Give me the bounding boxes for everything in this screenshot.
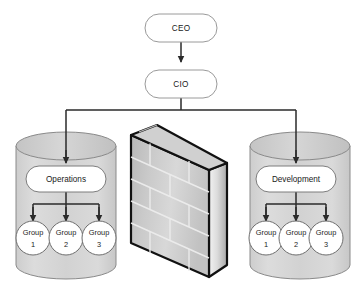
operations-group-3-label-line2: 3 (97, 240, 101, 249)
firewall-side-face (209, 163, 227, 277)
development-group-1-label-line1: Group (256, 228, 277, 237)
node-development[interactable]: Development (256, 166, 336, 192)
node-operations-group-2[interactable]: Group 2 (49, 221, 83, 255)
development-group-3-label-line1: Group (316, 228, 337, 237)
operations-group-1-label-line2: 1 (31, 240, 35, 249)
cio-label: CIO (173, 80, 188, 89)
node-development-group-1[interactable]: Group 1 (249, 221, 283, 255)
development-label: Development (272, 175, 321, 184)
node-ceo[interactable]: CEO (145, 14, 217, 42)
operations-group-2-shape (49, 221, 83, 255)
node-operations[interactable]: Operations (26, 166, 106, 192)
development-group-2-shape (279, 221, 313, 255)
node-operations-group-3[interactable]: Group 3 (82, 221, 116, 255)
operations-label: Operations (46, 175, 86, 184)
node-development-group-2[interactable]: Group 2 (279, 221, 313, 255)
development-group-1-shape (249, 221, 283, 255)
node-operations-group-1[interactable]: Group 1 (16, 221, 50, 255)
development-groups: Group 1 Group 2 Group 3 (249, 221, 343, 255)
diagram-canvas: CEO CIO Operations Development Group 1 (0, 0, 362, 294)
operations-group-1-shape (16, 221, 50, 255)
development-cylinder-top (250, 132, 350, 160)
operations-group-1-label-line1: Group (23, 228, 44, 237)
operations-group-3-shape (82, 221, 116, 255)
org-network-diagram: CEO CIO Operations Development Group 1 (0, 0, 362, 294)
development-zone[interactable] (250, 132, 350, 279)
operations-groups: Group 1 Group 2 Group 3 (16, 221, 116, 255)
development-group-3-label-line2: 3 (324, 240, 328, 249)
node-cio[interactable]: CIO (145, 70, 217, 98)
operations-group-3-label-line1: Group (89, 228, 110, 237)
development-group-2-label-line1: Group (286, 228, 307, 237)
firewall-icon[interactable] (131, 125, 227, 277)
development-group-2-label-line2: 2 (294, 240, 298, 249)
operations-group-2-label-line1: Group (56, 228, 77, 237)
ceo-label: CEO (172, 24, 191, 33)
development-group-3-shape (309, 221, 343, 255)
operations-group-2-label-line2: 2 (64, 240, 68, 249)
node-development-group-3[interactable]: Group 3 (309, 221, 343, 255)
development-group-1-label-line2: 1 (264, 240, 268, 249)
